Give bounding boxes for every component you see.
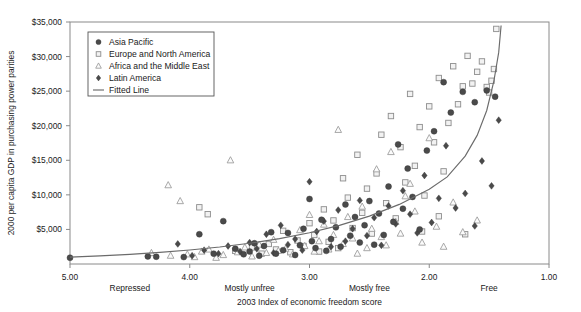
marker-europe-north-america — [436, 75, 441, 80]
y-tick-label: $10,000 — [32, 190, 63, 200]
marker-asia-pacific — [153, 254, 159, 260]
marker-asia-pacific — [280, 247, 286, 253]
x-axis-title: 2003 Index of economic freedom score — [237, 297, 382, 307]
marker-europe-north-america — [479, 59, 484, 64]
marker-europe-north-america — [307, 221, 312, 226]
marker-europe-north-america — [407, 91, 412, 96]
marker-asia-pacific — [196, 231, 202, 237]
marker-asia-pacific — [371, 242, 377, 248]
marker-europe-north-america — [417, 124, 422, 129]
marker-asia-pacific — [347, 233, 353, 239]
marker-europe-north-america — [359, 210, 364, 215]
y-tick-label: $35,000 — [32, 17, 63, 27]
marker-asia-pacific — [460, 89, 466, 95]
marker-asia-pacific — [307, 196, 313, 202]
marker-europe-north-america — [355, 152, 360, 157]
y-axis-title: 2000 per capita GDP in purchasing power … — [6, 51, 16, 236]
marker-africa-middle-east — [165, 182, 172, 188]
marker-africa-middle-east — [373, 166, 380, 172]
marker-asia-pacific — [431, 128, 437, 134]
marker-latin-america — [407, 211, 412, 218]
legend-entry[interactable]: Africa and the Middle East — [96, 61, 210, 71]
marker-europe-north-america — [465, 53, 470, 58]
scatter-chart-figure: $5,000$10,000$15,000$20,000$25,000$30,00… — [0, 0, 581, 312]
marker-asia-pacific — [232, 246, 238, 252]
legend-entry-label: Europe and North America — [109, 49, 210, 59]
x-category-label: Repressed — [110, 283, 151, 293]
marker-asia-pacific — [318, 217, 324, 223]
marker-asia-pacific — [292, 252, 298, 258]
x-category-label: Free — [481, 283, 499, 293]
marker-latin-america — [307, 178, 312, 185]
marker-asia-pacific — [297, 242, 303, 248]
x-tick-label: 2.00 — [421, 272, 438, 282]
x-tick-label: 4.00 — [182, 272, 199, 282]
marker-africa-middle-east — [345, 213, 352, 219]
chart-legend: Asia PacificEurope and North AmericaAfri… — [88, 32, 214, 96]
marker-asia-pacific — [381, 232, 387, 238]
marker-latin-america — [453, 205, 458, 212]
marker-europe-north-america — [364, 186, 369, 191]
marker-europe-north-america — [427, 104, 432, 109]
marker-latin-america — [479, 158, 484, 165]
marker-europe-north-america — [96, 52, 101, 57]
marker-europe-north-america — [441, 169, 446, 174]
marker-europe-north-america — [412, 163, 417, 168]
marker-africa-middle-east — [316, 238, 323, 244]
marker-latin-america — [422, 172, 427, 179]
marker-asia-pacific — [424, 148, 430, 154]
marker-asia-pacific — [211, 251, 217, 257]
marker-asia-pacific — [261, 243, 267, 249]
chart-canvas: $5,000$10,000$15,000$20,000$25,000$30,00… — [0, 0, 581, 312]
marker-europe-north-america — [446, 120, 451, 125]
marker-europe-north-america — [403, 180, 408, 185]
marker-europe-north-america — [379, 132, 384, 137]
y-tick-label: $25,000 — [32, 86, 63, 96]
marker-europe-north-america — [321, 207, 326, 212]
series-europe-and-north-america — [197, 26, 499, 256]
marker-latin-america — [336, 207, 341, 214]
marker-europe-north-america — [436, 214, 441, 219]
marker-africa-middle-east — [412, 208, 419, 214]
marker-asia-pacific — [323, 248, 329, 254]
y-axis-ticks: $5,000$10,000$15,000$20,000$25,000$30,00… — [32, 17, 70, 234]
legend-entry-label: Asia Pacific — [109, 37, 154, 47]
marker-europe-north-america — [494, 26, 499, 31]
marker-africa-middle-east — [227, 157, 234, 163]
y-tick-label: $20,000 — [32, 121, 63, 131]
marker-europe-north-america — [345, 195, 350, 200]
marker-asia-pacific — [328, 236, 334, 242]
x-category-label: Mostly unfree — [224, 283, 275, 293]
legend-entry-label: Fitted Line — [109, 85, 149, 95]
marker-africa-middle-east — [242, 244, 249, 250]
marker-africa-middle-east — [397, 230, 404, 236]
marker-africa-middle-east — [440, 243, 447, 249]
marker-africa-middle-east — [450, 199, 457, 205]
marker-africa-middle-east — [206, 246, 213, 252]
x-tick-label: 3.00 — [301, 272, 318, 282]
marker-asia-pacific — [366, 198, 372, 204]
marker-latin-america — [443, 142, 448, 149]
marker-asia-pacific — [352, 214, 358, 220]
legend-entry[interactable]: Europe and North America — [96, 49, 210, 59]
marker-africa-middle-east — [354, 250, 361, 256]
marker-europe-north-america — [474, 69, 479, 74]
marker-africa-middle-east — [419, 239, 426, 245]
marker-europe-north-america — [455, 102, 460, 107]
marker-asia-pacific — [472, 99, 478, 105]
y-tick-label: $30,000 — [32, 52, 63, 62]
marker-asia-pacific — [338, 244, 344, 250]
legend-entry-label: Africa and the Middle East — [109, 61, 210, 71]
marker-asia-pacific — [386, 184, 392, 190]
marker-asia-pacific — [357, 240, 363, 246]
marker-europe-north-america — [388, 113, 393, 118]
x-tick-label: 1.00 — [541, 272, 558, 282]
marker-asia-pacific — [448, 110, 454, 116]
marker-latin-america — [429, 219, 434, 226]
marker-asia-pacific — [273, 251, 279, 257]
marker-europe-north-america — [205, 212, 210, 217]
marker-asia-pacific — [145, 253, 151, 259]
marker-asia-pacific — [96, 39, 101, 44]
marker-asia-pacific — [268, 229, 274, 235]
series-latin-america — [175, 117, 501, 259]
